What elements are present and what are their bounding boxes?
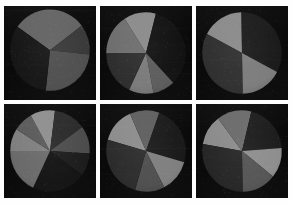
pie-chart-6[interactable] (196, 104, 288, 198)
pie-chart-panel-6[interactable] (196, 104, 288, 198)
pie-chart-5[interactable] (100, 104, 192, 198)
pie-slice[interactable] (202, 144, 242, 192)
figure-root (0, 0, 292, 204)
pie-chart-1[interactable] (4, 6, 96, 100)
pie-chart-4[interactable] (4, 104, 96, 198)
pie-chart-panel-5[interactable] (100, 104, 192, 198)
pie-chart-grid (0, 0, 292, 204)
pie-chart-panel-1[interactable] (4, 6, 96, 100)
pie-chart-panel-4[interactable] (4, 104, 96, 198)
pie-chart-panel-3[interactable] (196, 6, 288, 100)
pie-chart-2[interactable] (100, 6, 192, 100)
pie-chart-panel-2[interactable] (100, 6, 192, 100)
pie-chart-3[interactable] (196, 6, 288, 100)
pie-slice[interactable] (46, 50, 90, 91)
